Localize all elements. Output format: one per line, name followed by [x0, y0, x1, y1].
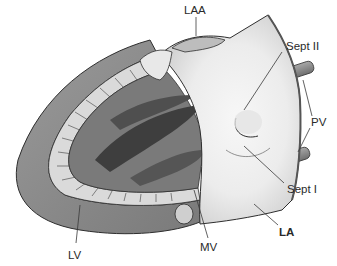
label-mv: MV: [200, 241, 218, 253]
label-sept-ii: Sept II: [286, 40, 319, 52]
coronary-vessel: [175, 204, 193, 224]
label-lv: LV: [68, 249, 82, 261]
label-pv: PV: [311, 116, 327, 128]
label-laa: LAA: [184, 4, 206, 16]
fossa-ovalis: [234, 110, 262, 134]
label-la: LA: [279, 226, 294, 238]
label-sept-i: Sept I: [287, 183, 317, 195]
heart-diagram: LAA Sept II PV Sept I LA MV LV: [0, 0, 337, 266]
heart-illustration: LAA Sept II PV Sept I LA MV LV: [0, 0, 337, 266]
